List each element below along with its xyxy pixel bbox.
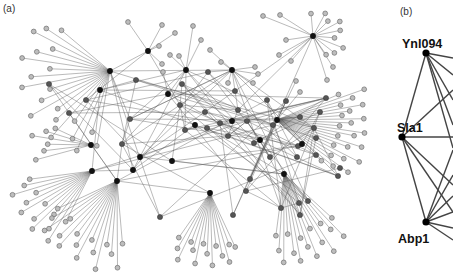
leaf-node (347, 109, 352, 114)
panel-b-edges (402, 53, 453, 240)
edge (279, 174, 284, 251)
intermediate-node (297, 212, 302, 217)
leaf-node (193, 261, 198, 266)
leaf-node (319, 158, 324, 163)
leaf-node (74, 256, 79, 261)
leaf-node (46, 238, 51, 243)
intermediate-node (337, 165, 342, 170)
leaf-node (298, 236, 303, 241)
intermediate-node (232, 88, 237, 93)
leaf-node (332, 36, 337, 41)
edge (313, 36, 327, 80)
leaf-node (160, 23, 165, 28)
leaf-node (49, 135, 54, 140)
panel-a-network: (a) (3, 3, 367, 272)
edge (402, 137, 453, 185)
leaf-node (74, 148, 79, 153)
leaf-node (331, 65, 336, 70)
leaf-node (278, 13, 283, 18)
intermediate-node (244, 118, 249, 123)
leaf-node (277, 248, 282, 253)
leaf-node (323, 11, 328, 16)
hub-node (107, 68, 113, 74)
edge (426, 175, 453, 222)
leaf-node (175, 246, 180, 251)
intermediate-node (294, 154, 299, 159)
leaf-node (306, 245, 311, 250)
edge (232, 70, 258, 74)
edge (426, 53, 453, 148)
leaf-node (233, 245, 238, 250)
leaf-node (330, 216, 335, 221)
hub-node (229, 118, 235, 124)
hub-node (97, 87, 103, 93)
intermediate-node (202, 109, 207, 114)
leaf-node (168, 53, 173, 58)
leaf-node (328, 227, 333, 232)
leaf-node (120, 241, 125, 246)
leaf-node (20, 56, 25, 61)
leaf-node (68, 216, 73, 221)
edge (402, 137, 426, 222)
leaf-node (42, 228, 47, 233)
edge (70, 181, 117, 219)
edge (30, 171, 92, 179)
leaf-node (191, 248, 196, 253)
leaf-node (338, 28, 343, 33)
leaf-node (74, 243, 79, 248)
edge (210, 193, 235, 247)
leaf-node (337, 124, 342, 129)
panel-b-label: (b) (400, 6, 412, 17)
leaf-node (177, 54, 182, 59)
leaf-node (28, 113, 33, 118)
leaf-node (50, 47, 55, 52)
hub-node (257, 137, 263, 143)
leaf-node (337, 19, 342, 24)
leaf-node (331, 143, 336, 148)
leaf-node (109, 252, 114, 257)
leaf-node (361, 116, 366, 121)
protein-label-sla1: Sla1 (397, 121, 423, 135)
leaf-node (226, 81, 231, 86)
intermediate-node (305, 198, 310, 203)
hub-node (183, 67, 189, 73)
leaf-node (345, 145, 350, 150)
leaf-node (289, 59, 294, 64)
intermediate-node (296, 200, 301, 205)
leaf-node (281, 260, 286, 265)
intermediate-node (83, 97, 88, 102)
intermediate-node (217, 120, 222, 125)
hub-node (274, 117, 280, 123)
leaf-node (350, 96, 355, 101)
leaf-node (274, 233, 279, 238)
hub-node (207, 190, 213, 196)
edge (128, 22, 148, 51)
intermediate-node (313, 152, 318, 157)
leaf-node (50, 216, 55, 221)
hub-node (130, 167, 136, 173)
intermediate-node (225, 133, 230, 138)
hub-node (281, 171, 287, 177)
leaf-node (341, 46, 346, 51)
leaf-node (44, 129, 49, 134)
leaf-node (292, 251, 297, 256)
intermediate-node (235, 107, 240, 112)
leaf-node (176, 235, 181, 240)
intermediate-node (230, 212, 235, 217)
leaf-node (175, 257, 180, 262)
leaf-node (362, 131, 367, 136)
panel-a-label: (a) (3, 3, 15, 14)
edge (60, 181, 117, 236)
leaf-node (256, 72, 261, 77)
hub-node (310, 33, 316, 39)
hub-node (88, 142, 94, 148)
intermediate-node (251, 140, 256, 145)
leaf-node (277, 53, 282, 58)
intermediate-node (311, 125, 316, 130)
edge (228, 136, 338, 176)
edge (238, 36, 313, 110)
leaf-node (173, 31, 178, 36)
leaf-node (325, 78, 330, 83)
edge (46, 29, 110, 71)
leaf-node (331, 164, 336, 169)
